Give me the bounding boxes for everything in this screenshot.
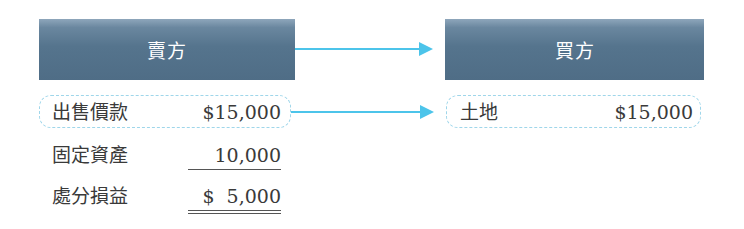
seller-header: 賣方	[39, 19, 295, 80]
seller-title: 賣方	[147, 36, 187, 63]
sale-price-label: 出售價款	[52, 100, 128, 124]
disposal-gain-amount: $ 5,000	[180, 184, 281, 208]
subtotal-rule	[188, 169, 281, 170]
sale-to-land-arrow	[291, 111, 432, 113]
buyer-header: 買方	[445, 19, 704, 80]
disposal-gain-label: 處分損益	[52, 184, 128, 208]
fixed-asset-amount: 10,000	[180, 143, 281, 167]
land-label: 土地	[460, 100, 498, 124]
total-double-rule	[188, 210, 281, 214]
sale-price-amount: $15,000	[180, 100, 281, 124]
buyer-title: 買方	[555, 36, 595, 63]
fixed-asset-label: 固定資產	[52, 143, 128, 167]
seller-to-buyer-arrow	[295, 48, 431, 50]
land-amount: $15,000	[590, 100, 693, 124]
